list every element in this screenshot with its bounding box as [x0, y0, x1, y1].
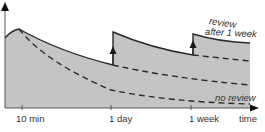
tick-label-1-day: 1 day — [109, 114, 132, 124]
annotation-after-1-week: after 1 week — [205, 27, 257, 39]
x-axis-arrow-icon — [250, 105, 259, 112]
tick-label-1-week: 1 week — [189, 114, 219, 124]
x-axis-label: time — [239, 114, 257, 124]
y-axis-arrow-icon — [1, 2, 9, 11]
tick-label-10-min: 10 min — [16, 114, 45, 124]
annotation-no-review: no review — [215, 93, 256, 103]
